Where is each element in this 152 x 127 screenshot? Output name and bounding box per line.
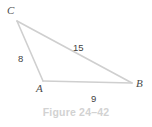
side-length-label-ca: 8: [18, 54, 23, 64]
triangle-side-ab: [43, 81, 132, 83]
vertex-label-a: A: [36, 83, 43, 94]
vertex-label-c: C: [7, 5, 14, 16]
side-length-label-cb: 15: [73, 43, 84, 53]
figure-container: C A B 8 15 9 Figure 24–42: [0, 0, 152, 127]
triangle-side-ca: [17, 21, 43, 81]
side-length-label-ab: 9: [91, 94, 96, 104]
figure-caption: Figure 24–42: [0, 107, 152, 118]
vertex-label-b: B: [136, 78, 143, 89]
